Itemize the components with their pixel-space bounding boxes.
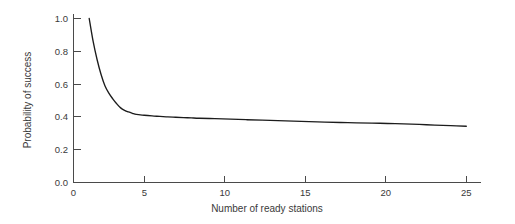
chart-figure: 1.0 0.8 0.6 0.4 0.2 0.0 0 5 10 15 20 25 …: [0, 0, 515, 224]
y-tick-label: 0.2: [55, 144, 68, 155]
x-axis-title: Number of ready stations: [211, 203, 323, 214]
x-tick-label: 5: [142, 187, 147, 198]
y-tick-label: 0.4: [55, 111, 68, 122]
chart-background: [0, 0, 515, 224]
x-tick-label: 25: [461, 187, 472, 198]
y-tick-label: 0.6: [55, 79, 68, 90]
x-tick-label: 10: [220, 187, 231, 198]
y-tick-label: 1.0: [55, 13, 68, 24]
y-tick-label: 0.8: [55, 46, 68, 57]
x-tick-label: 15: [300, 187, 311, 198]
probability-of-success-line-chart: 1.0 0.8 0.6 0.4 0.2 0.0 0 5 10 15 20 25 …: [0, 0, 515, 224]
y-axis-title: Probability of success: [22, 52, 33, 149]
y-tick-label: 0.0: [55, 177, 68, 188]
x-tick-label: 0: [71, 187, 76, 198]
x-tick-label: 20: [381, 187, 392, 198]
